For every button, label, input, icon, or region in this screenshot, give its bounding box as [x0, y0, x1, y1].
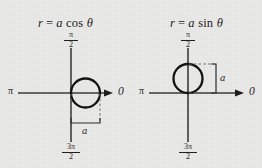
axis-label-zero: 0 [249, 86, 255, 98]
measure-bracket [211, 64, 216, 93]
equation-variable: θ [217, 16, 223, 30]
axis-label-pi-over-2: π 2 [181, 31, 195, 50]
axis-label-pi-left: π [139, 86, 144, 96]
axis-label-zero: 0 [118, 86, 124, 98]
axis-label-pi-left: π [8, 86, 13, 96]
axis-arrowhead-icon [104, 89, 113, 96]
equation-function: sin [198, 16, 213, 30]
equation-coefficient: a [188, 16, 194, 30]
fraction-denominator: 2 [181, 41, 195, 50]
equation-function: cos [66, 16, 83, 30]
panel-cosine: r=a cos θ π 0 π 2 [0, 0, 131, 168]
fraction-denominator: 2 [64, 41, 78, 50]
equation-title-sine: r=a sin θ [131, 16, 262, 31]
measure-label-a: a [220, 73, 225, 84]
equation-variable: θ [87, 16, 93, 30]
axis-arrowhead-icon [235, 89, 244, 96]
axis-label-pi-over-2: π 2 [64, 31, 78, 50]
figure-sine: π 0 π 2 3π 2 a [131, 30, 262, 168]
equation-equals: = [175, 16, 188, 30]
axis-label-3pi-over-2: 3π 2 [179, 143, 197, 162]
equation-coefficient: a [56, 16, 62, 30]
fraction-denominator: 2 [179, 153, 197, 162]
measure-bracket [71, 118, 100, 123]
panel-sine: r=a sin θ π 0 π 2 [131, 0, 262, 168]
figure-cosine: π 0 π 2 3π 2 a [0, 30, 131, 168]
equation-title-cosine: r=a cos θ [0, 16, 131, 31]
measure-label-a: a [82, 126, 87, 137]
polar-graphs-figure: r=a cos θ π 0 π 2 [0, 0, 262, 168]
equation-equals: = [43, 16, 56, 30]
fraction-denominator: 2 [62, 153, 80, 162]
axis-label-3pi-over-2: 3π 2 [62, 143, 80, 162]
